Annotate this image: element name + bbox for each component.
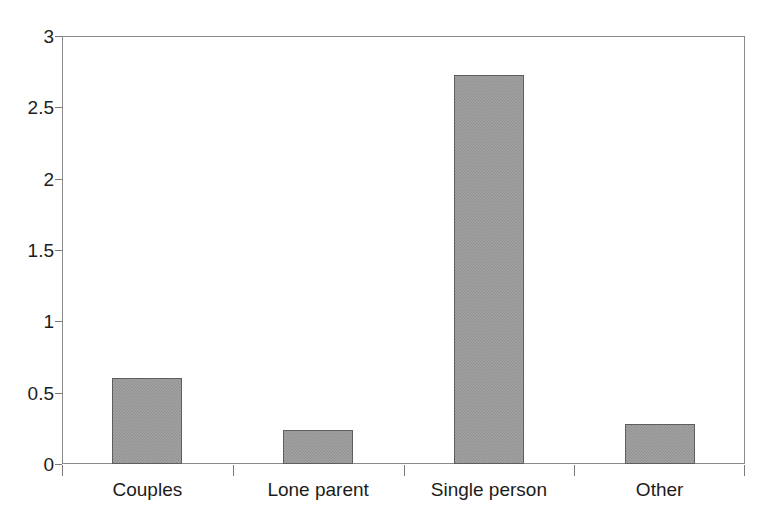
y-tick-mark-0-5 <box>55 393 62 394</box>
y-tick-label-3: 3 <box>0 27 54 46</box>
y-axis: 0 0.5 1 1.5 2 2.5 3 <box>0 0 54 528</box>
bar-slot-single-person <box>404 36 575 464</box>
x-tick-mark-4 <box>744 465 745 476</box>
bar-slot-couples <box>62 36 233 464</box>
y-tick-label-2-5: 2.5 <box>0 98 54 117</box>
bar-chart-figure: 0 0.5 1 1.5 2 2.5 3 <box>0 0 770 528</box>
bar-slot-lone-parent <box>233 36 404 464</box>
y-tick-label-1-5: 1.5 <box>0 241 54 260</box>
y-tick-mark-2 <box>55 179 62 180</box>
y-tick-label-1: 1 <box>0 312 54 331</box>
bar-lone-parent <box>283 430 353 464</box>
bars-layer <box>62 36 745 464</box>
bar-couples <box>112 378 182 464</box>
y-tick-mark-1-5 <box>55 250 62 251</box>
y-tick-label-2: 2 <box>0 169 54 188</box>
x-tick-mark-3 <box>574 465 575 476</box>
x-tick-label-single-person: Single person <box>404 478 575 504</box>
x-tick-mark-0 <box>62 465 63 476</box>
x-axis-ticks <box>0 465 770 477</box>
y-tick-label-0-5: 0.5 <box>0 383 54 402</box>
x-tick-label-couples: Couples <box>62 478 233 504</box>
bar-slot-other <box>574 36 745 464</box>
bar-other <box>625 424 695 464</box>
x-tick-mark-2 <box>404 465 405 476</box>
bar-single-person <box>454 75 524 464</box>
x-tick-mark-1 <box>233 465 234 476</box>
y-tick-mark-1 <box>55 321 62 322</box>
x-axis: Couples Lone parent Single person Other <box>62 478 745 504</box>
x-tick-label-lone-parent: Lone parent <box>233 478 404 504</box>
y-tick-mark-2-5 <box>55 107 62 108</box>
x-tick-label-other: Other <box>574 478 745 504</box>
y-tick-mark-3 <box>55 36 62 37</box>
